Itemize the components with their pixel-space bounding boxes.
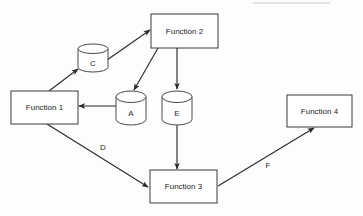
datastore-c[interactable]: C: [78, 44, 108, 72]
datastore-c-label: C: [90, 59, 96, 68]
datastore-e-label: E: [174, 109, 179, 118]
datastore-group: C A E: [78, 44, 192, 125]
datastore-a-top: [116, 91, 146, 103]
diagram-canvas-container: D F Function 1 Function 2 Function 3 Fun…: [0, 0, 363, 216]
edge-function-1-to-store-c: [49, 69, 78, 91]
datastore-e-top: [162, 91, 192, 103]
edge-label-group: D F: [100, 143, 270, 170]
node-function-1-label: Function 1: [26, 103, 64, 112]
edge-function-1-to-function-3: [47, 124, 148, 187]
edge-function-2-to-store-a: [134, 48, 158, 90]
node-function-3-label: Function 3: [165, 182, 203, 191]
datastore-e[interactable]: E: [162, 91, 192, 125]
node-function-2-label: Function 2: [166, 27, 204, 36]
edge-label-f: F: [266, 161, 271, 170]
edge-function-3-to-function-4: [218, 128, 314, 186]
node-function-3[interactable]: Function 3: [150, 170, 217, 203]
datastore-c-top: [78, 44, 108, 54]
datastore-a[interactable]: A: [116, 91, 146, 125]
data-flow-diagram: D F Function 1 Function 2 Function 3 Fun…: [0, 0, 363, 216]
edge-label-d: D: [100, 143, 106, 152]
node-function-1[interactable]: Function 1: [11, 91, 78, 124]
node-function-4[interactable]: Function 4: [287, 95, 352, 127]
node-function-2[interactable]: Function 2: [151, 14, 218, 48]
edge-store-c-to-function-2: [107, 30, 150, 60]
datastore-a-label: A: [128, 109, 134, 118]
node-function-4-label: Function 4: [301, 107, 339, 116]
